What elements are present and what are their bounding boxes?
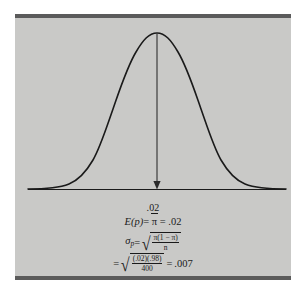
curve-group	[28, 33, 286, 190]
equals-sign-4: =	[113, 253, 119, 275]
standard-error-equation: σp=√π(1 − π)n	[15, 230, 291, 252]
standard-error-computed: =√(.02)(.98)400=.007	[15, 252, 291, 274]
radical-group-2: √(.02)(.98)400	[120, 253, 164, 275]
statistics-figure: .02 E(p)= π = .02 σp=√π(1 − π)n =√(.02)(…	[0, 0, 307, 295]
standard-error-result: .007	[174, 253, 192, 275]
radical-sign-1: √	[142, 234, 151, 253]
equals-sign-1: =	[143, 216, 149, 227]
fraction-2: (.02)(.98)400	[130, 253, 165, 273]
fraction-numerator-2: (.02)(.98)	[132, 254, 163, 263]
formula-block: .02 E(p)= π = .02 σp=√π(1 − π)n =√(.02)(…	[15, 202, 291, 274]
fraction-numerator-1: π(1 − π)	[152, 233, 178, 242]
fraction-denominator-2: 400	[132, 263, 163, 273]
expected-value-lhs: E(p)	[125, 216, 144, 227]
fraction-denominator-1: n	[152, 242, 178, 252]
equals-sign-2: =	[160, 216, 166, 227]
figure-panel: .02 E(p)= π = .02 σp=√π(1 − π)n =√(.02)(…	[15, 14, 291, 280]
pi-symbol: π	[152, 214, 157, 230]
equals-sign-5: =	[166, 253, 172, 275]
equals-sign-3: =	[134, 232, 140, 254]
expected-value-result: .02	[168, 216, 181, 227]
mean-arrowhead	[153, 181, 160, 190]
expected-value-equation: E(p)= π = .02	[15, 214, 291, 230]
radical-group-1: √π(1 − π)n	[141, 232, 181, 254]
radical-sign-2: √	[121, 255, 130, 274]
fraction-1: π(1 − π)n	[150, 232, 180, 252]
